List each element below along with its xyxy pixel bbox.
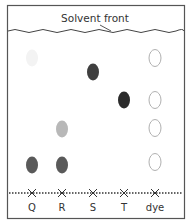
- spot-dye: [149, 50, 161, 67]
- spot-dye: [149, 92, 161, 109]
- spot-t: [118, 92, 130, 109]
- spot-dye: [149, 120, 161, 137]
- lane-label-s: S: [78, 202, 108, 213]
- lane-label-dye: dye: [140, 202, 170, 213]
- paper-border: [8, 6, 185, 219]
- spot-r: [56, 121, 68, 138]
- chromatogram-paper: [0, 0, 189, 224]
- lane-label-q: Q: [17, 202, 47, 213]
- spot-s: [87, 64, 99, 81]
- solvent-front-label: Solvent front: [55, 12, 135, 24]
- spot-r: [56, 157, 68, 174]
- chromatography-diagram: Solvent front Q R S T dye: [0, 0, 189, 224]
- lane-label-t: T: [109, 202, 139, 213]
- spot-q: [26, 50, 38, 67]
- spot-dye: [149, 154, 161, 171]
- spot-q: [26, 157, 38, 174]
- lane-label-r: R: [47, 202, 77, 213]
